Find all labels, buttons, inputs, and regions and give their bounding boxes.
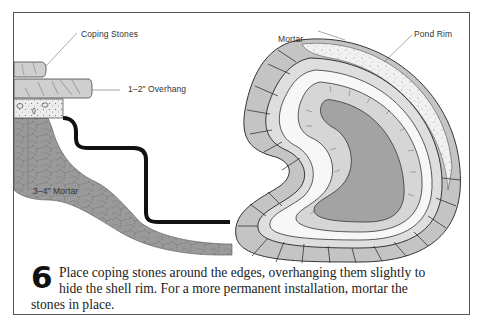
label-coping-stones: Coping Stones: [81, 29, 138, 39]
label-mortar-depth: 3–4" Mortar: [33, 186, 78, 196]
caption-line-1: Place coping stones around the edges, ov…: [59, 265, 425, 281]
label-mortar: Mortar: [278, 34, 303, 44]
coping-stone-upper: [14, 62, 46, 77]
pond-plan-diagram: [236, 31, 461, 263]
label-pond-rim: Pond Rim: [414, 29, 452, 39]
cross-section-diagram: [14, 33, 232, 255]
caption-line-2: hide the shell rim. For a more permanent…: [59, 281, 408, 297]
step-number: 6: [31, 262, 53, 293]
caption-line-3: stones in place.: [31, 297, 114, 313]
label-overhang: 1–2" Overhang: [128, 84, 186, 94]
coping-stone-lower: [14, 79, 92, 98]
